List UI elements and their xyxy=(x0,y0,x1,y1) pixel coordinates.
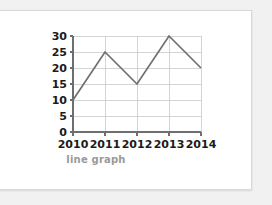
x-tick-label-2011: 2011 xyxy=(90,138,121,151)
line-chart-plot: 051015202530 20102011201220132014 xyxy=(0,11,253,161)
chart-caption: line graph xyxy=(0,154,201,165)
y-axis-tick-labels: 051015202530 xyxy=(52,30,68,139)
y-tick-label-30: 30 xyxy=(52,30,68,43)
x-axis-tick-labels: 20102011201220132014 xyxy=(58,138,217,151)
x-tick-label-2014: 2014 xyxy=(186,138,217,151)
x-axis-tick-marks xyxy=(73,132,201,136)
x-tick-label-2012: 2012 xyxy=(122,138,153,151)
y-tick-label-20: 20 xyxy=(52,62,68,75)
line-chart-figure: 051015202530 20102011201220132014 line g… xyxy=(0,11,253,191)
y-tick-label-25: 25 xyxy=(52,46,67,59)
y-tick-label-10: 10 xyxy=(52,94,68,107)
y-tick-label-5: 5 xyxy=(59,110,67,123)
y-tick-label-15: 15 xyxy=(52,78,67,91)
x-tick-label-2013: 2013 xyxy=(154,138,185,151)
x-tick-label-2010: 2010 xyxy=(58,138,89,151)
figure-card: 051015202530 20102011201220132014 line g… xyxy=(0,10,252,190)
